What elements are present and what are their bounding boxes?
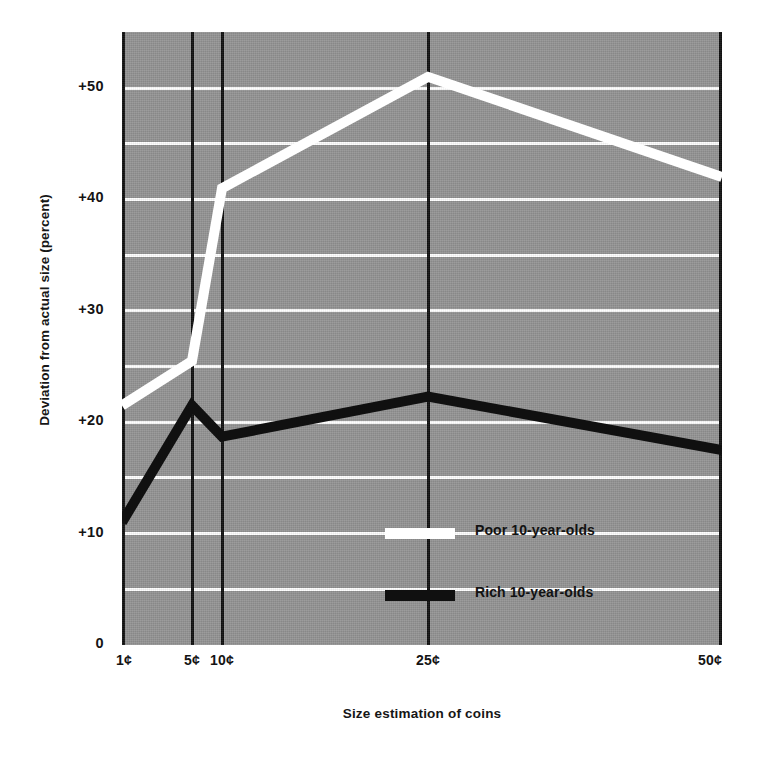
- plot-area: Poor 10-year-oldsRich 10-year-olds: [122, 32, 722, 645]
- y-axis-tick-label: +40: [8, 189, 104, 205]
- legend-item-label: Rich 10-year-olds: [475, 584, 593, 600]
- y-axis-tick-label: +50: [8, 78, 104, 94]
- x-axis-title: Size estimation of coins: [122, 706, 722, 721]
- legend-color-swatch: [385, 528, 455, 539]
- y-axis-tick-label: 0: [8, 635, 104, 651]
- x-axis-tick-label: 25¢: [416, 652, 440, 668]
- x-axis-tick-label: 1¢: [116, 652, 132, 668]
- chart-legend: Poor 10-year-oldsRich 10-year-olds: [385, 522, 705, 612]
- series-line: [122, 77, 722, 406]
- x-axis-tick-label: 5¢: [184, 652, 200, 668]
- x-axis-tick-label: 50¢: [698, 652, 722, 668]
- chart-figure: Deviation from actual size (percent) +50…: [0, 0, 762, 765]
- legend-item-label: Poor 10-year-olds: [475, 522, 595, 538]
- legend-color-swatch: [385, 590, 455, 601]
- series-line: [122, 397, 722, 523]
- y-axis-tick-label: +20: [8, 412, 104, 428]
- x-axis-tick-label: 10¢: [210, 652, 234, 668]
- y-axis-tick-label: +30: [8, 301, 104, 317]
- y-axis-tick-label: +10: [8, 524, 104, 540]
